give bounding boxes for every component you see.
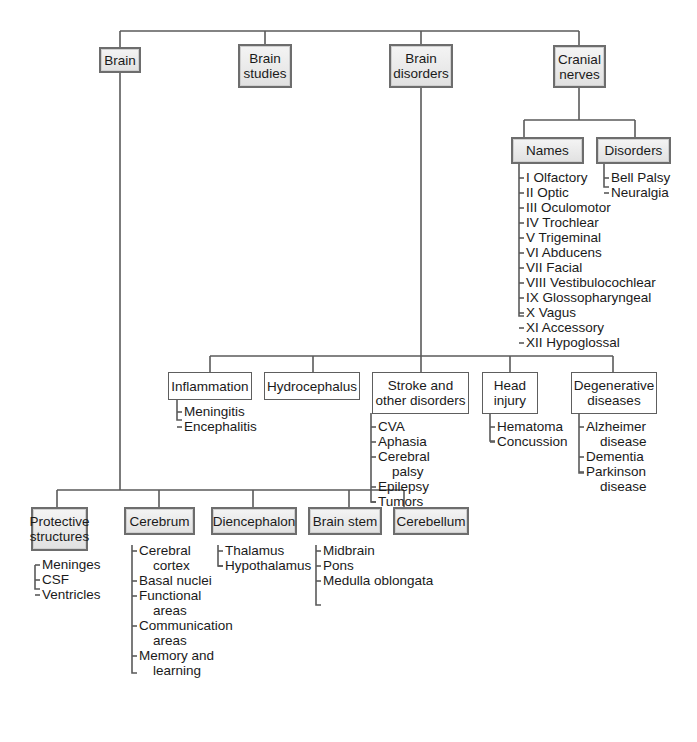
node-diencephalon: Diencephalon (211, 507, 297, 535)
cranial-disorders-list: Bell PalsyNeuralgia (604, 170, 670, 200)
list-item: Concussion (490, 434, 568, 449)
list-item: Meningitis (177, 404, 257, 419)
list-item: VII Facial (519, 260, 656, 275)
protective-list: MeningesCSFVentricles (35, 557, 101, 602)
list-item: Pons (316, 558, 433, 573)
list-item: Neuralgia (604, 185, 670, 200)
list-item: Communicationareas (132, 618, 233, 648)
connector-lines (0, 0, 697, 742)
node-head-injury: Head injury (482, 372, 538, 414)
node-names: Names (511, 137, 584, 164)
list-item: Hypothalamus (218, 558, 311, 573)
list-item: IX Glossopharyngeal (519, 290, 656, 305)
list-item: Thalamus (218, 543, 311, 558)
node-cranial-nerves: Cranial nerves (553, 45, 606, 88)
list-item: Functionalareas (132, 588, 233, 618)
list-item: X Vagus (519, 305, 656, 320)
node-protective-structures: Protective structures (31, 507, 88, 551)
list-item: Meninges (35, 557, 101, 572)
list-item: Memory andlearning (132, 648, 233, 678)
brain-stem-list: MidbrainPonsMedulla oblongata (316, 543, 433, 588)
list-item: Parkinsondisease (579, 464, 647, 494)
list-item: Ventricles (35, 587, 101, 602)
node-inflammation: Inflammation (168, 372, 252, 400)
list-item: Encephalitis (177, 419, 257, 434)
list-item: VIII Vestibulocochlear (519, 275, 656, 290)
node-stroke: Stroke and other disorders (372, 372, 469, 414)
list-item: Medulla oblongata (316, 573, 433, 588)
list-item: CVA (371, 419, 430, 434)
list-item: VI Abducens (519, 245, 656, 260)
list-item: CSF (35, 572, 101, 587)
list-item: Dementia (579, 449, 647, 464)
node-hydrocephalus: Hydrocephalus (264, 372, 360, 400)
head-injury-list: HematomaConcussion (490, 419, 568, 449)
stroke-list: CVAAphasiaCerebralpalsyEpilepsyTumors (371, 419, 430, 509)
list-item: XII Hypoglossal (519, 335, 656, 350)
node-cranial-disorders: Disorders (596, 137, 671, 164)
list-item: Bell Palsy (604, 170, 670, 185)
degenerative-list: AlzheimerdiseaseDementiaParkinsondisease (579, 419, 647, 494)
node-brain-studies: Brain studies (238, 44, 292, 88)
diencephalon-list: ThalamusHypothalamus (218, 543, 311, 573)
list-item: XI Accessory (519, 320, 656, 335)
list-item: Aphasia (371, 434, 430, 449)
node-brain: Brain (99, 47, 141, 73)
node-degenerative: Degenerative diseases (571, 372, 657, 414)
list-item: Cerebralpalsy (371, 449, 430, 479)
node-cerebrum: Cerebrum (124, 507, 195, 535)
list-item: III Oculomotor (519, 200, 656, 215)
list-item: Hematoma (490, 419, 568, 434)
node-brain-stem: Brain stem (308, 507, 382, 535)
list-item: Epilepsy (371, 479, 430, 494)
list-item: Alzheimerdisease (579, 419, 647, 449)
inflammation-list: MeningitisEncephalitis (177, 404, 257, 434)
list-item: Basal nuclei (132, 573, 233, 588)
list-item: IV Trochlear (519, 215, 656, 230)
node-cerebellum: Cerebellum (393, 507, 469, 535)
list-item: Midbrain (316, 543, 433, 558)
node-brain-disorders: Brain disorders (389, 44, 453, 88)
list-item: V Trigeminal (519, 230, 656, 245)
